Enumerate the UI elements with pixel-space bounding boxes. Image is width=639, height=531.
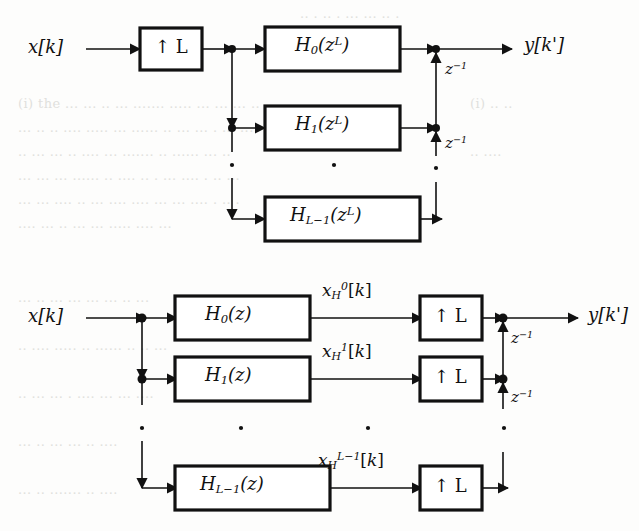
lower-junction-node-1: [138, 375, 147, 384]
upper-filter-label-1: H1(zL): [295, 115, 349, 133]
upper-delay-label-1: z−1: [445, 136, 467, 151]
upper-filter-label-0: H0(zL): [295, 36, 349, 54]
lower-output-label: y[k']: [588, 306, 628, 324]
lower-ellipsis-dot: [140, 426, 144, 430]
upper-delay-label-0: z−1: [445, 62, 467, 77]
upper-ellipsis-dot: [230, 163, 234, 167]
upper-filter-label-N: HL−1(zL): [290, 206, 362, 224]
lower-ellipsis-dot: [239, 426, 243, 430]
upper-sum-node-1: [432, 124, 440, 132]
upper-junction-node-0: [228, 45, 236, 53]
lower-upsampler-label-N: ↑ L: [434, 477, 467, 495]
upper-output-label: y[k']: [524, 36, 564, 54]
lower-diagram: [86, 296, 578, 510]
lower-junction-node-0: [138, 314, 147, 323]
upper-input-label: x[k]: [28, 38, 63, 56]
lower-input-label: x[k]: [28, 307, 63, 325]
lower-ellipsis-dot: [502, 426, 506, 430]
lower-ellipsis-dot: [366, 426, 370, 430]
lower-filter-label-N: HL−1(z): [200, 475, 264, 493]
lower-upsampler-label-1: ↑ L: [434, 368, 467, 386]
lower-signal-label-1: xH1[k]: [322, 343, 372, 360]
upper-ellipsis-dot: [332, 163, 336, 167]
lower-delay-label-1: z−1: [511, 390, 533, 405]
lower-sum-node-1: [499, 375, 508, 384]
lower-signal-label-0: xH0[k]: [322, 282, 372, 299]
lower-upsampler-label-0: ↑ L: [434, 307, 467, 325]
upper-ellipsis-dot: [434, 166, 438, 170]
upper-junction-node-1: [228, 124, 236, 132]
upper-upsampler-label: ↑ L: [155, 38, 188, 56]
figure-page: .. . .. . ... ... .. . (i) the ... ... .…: [0, 0, 639, 531]
lower-filter-label-1: H1(z): [205, 366, 252, 384]
lower-delay-label-0: z−1: [511, 331, 533, 346]
lower-signal-label-N: xHL−1[k]: [318, 452, 384, 469]
lower-filter-label-0: H0(z): [205, 305, 252, 323]
